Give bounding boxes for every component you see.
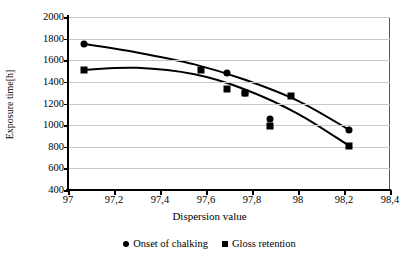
gridline <box>68 17 390 18</box>
y-axis-tickmark <box>64 104 69 106</box>
x-axis-tick-label: 97,4 <box>151 195 169 206</box>
x-axis-tick-labels: 9797,297,497,697,89898,298,4 <box>0 195 419 211</box>
plot-area <box>68 17 390 190</box>
y-axis-label: Exposure time[h] <box>2 44 18 164</box>
data-point-square <box>81 66 88 73</box>
legend-item[interactable]: Onset of chalking <box>123 238 208 249</box>
y-axis-tickmark <box>64 39 69 41</box>
gridline <box>68 82 390 83</box>
gridline <box>68 147 390 148</box>
data-point-square <box>288 92 295 99</box>
data-point-square <box>345 143 352 150</box>
x-axis-tick-label: 97,6 <box>197 195 215 206</box>
legend-marker-square-icon <box>222 241 228 247</box>
legend-label: Gloss retention <box>232 238 296 249</box>
x-axis-label: Dispersion value <box>0 210 419 222</box>
x-axis-label-text: Dispersion value <box>172 210 246 222</box>
x-axis-tick-label: 98,2 <box>335 195 353 206</box>
gridline <box>68 60 390 61</box>
y-axis-tick-label: 1400 <box>30 77 64 88</box>
y-axis-tick-label: 400 <box>30 185 64 196</box>
y-axis-label-text: Exposure time[h] <box>5 69 16 139</box>
y-axis-tickmark <box>64 17 69 19</box>
x-axis-tick-label: 97,2 <box>105 195 123 206</box>
legend-label: Onset of chalking <box>133 238 208 249</box>
y-axis-tickmark <box>64 168 69 170</box>
x-axis-tick-label: 98 <box>293 195 304 206</box>
data-point-square <box>242 89 249 96</box>
chart-legend: Onset of chalkingGloss retention <box>0 238 419 249</box>
x-axis-tick-label: 98,4 <box>381 195 399 206</box>
y-axis-tick-label: 1800 <box>30 33 64 44</box>
data-point-square <box>198 66 205 73</box>
gridline <box>68 39 390 40</box>
gridline <box>68 104 390 105</box>
y-axis-tickmark <box>64 125 69 127</box>
y-axis-tickmark <box>64 82 69 84</box>
data-point-square <box>223 86 230 93</box>
y-axis-tick-label: 600 <box>30 163 64 174</box>
y-axis-tickmark <box>64 147 69 149</box>
data-point-circle <box>81 41 88 48</box>
legend-item[interactable]: Gloss retention <box>222 238 296 249</box>
y-axis-tick-label: 1000 <box>30 120 64 131</box>
y-axis-tick-label: 2000 <box>30 12 64 23</box>
gridline <box>68 125 390 126</box>
gridline <box>68 168 390 169</box>
y-axis-tick-labels: 400600800100012001400160018002000 <box>26 0 64 263</box>
y-axis-tickmark <box>64 60 69 62</box>
chart-container: Exposure time[h] 40060080010001200140016… <box>0 0 419 263</box>
legend-marker-circle-icon <box>123 241 129 247</box>
trend-line-circle <box>84 44 349 129</box>
x-axis-tick-label: 97,8 <box>243 195 261 206</box>
data-point-circle <box>223 69 230 76</box>
y-axis-tick-label: 1600 <box>30 55 64 66</box>
y-axis-tick-label: 800 <box>30 142 64 153</box>
data-point-square <box>267 123 274 130</box>
data-point-circle <box>345 126 352 133</box>
y-axis-tick-label: 1200 <box>30 98 64 109</box>
data-point-circle <box>267 115 274 122</box>
x-axis-tick-label: 97 <box>63 195 74 206</box>
